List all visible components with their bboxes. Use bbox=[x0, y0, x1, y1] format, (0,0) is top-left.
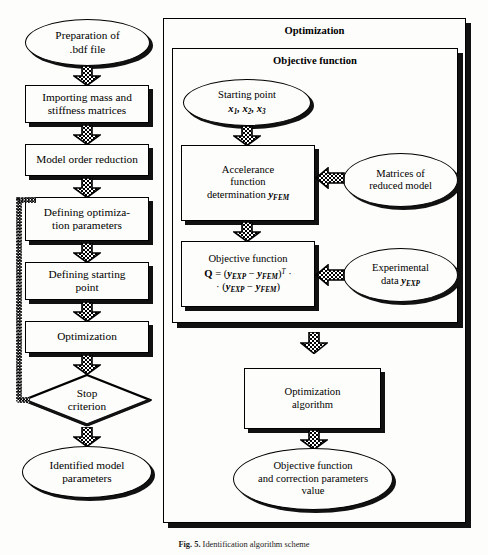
node-result-line1: Objective function bbox=[258, 460, 368, 473]
node-starting-point-line1: Starting point bbox=[218, 89, 276, 102]
optimization-frame-title: Optimization bbox=[163, 25, 466, 36]
stop-criterion-label-wrap: Stop criterion bbox=[22, 373, 152, 427]
var-x3-sub: 3 bbox=[262, 107, 266, 115]
dashed-feedback-loop bbox=[10, 196, 40, 404]
objective-sub2: FEM bbox=[262, 273, 278, 281]
objective-sub4: FEM bbox=[260, 286, 276, 294]
figure-canvas: Optimization Objective function Preparat… bbox=[0, 0, 488, 555]
objective-dot1: · bbox=[288, 268, 292, 279]
node-result-value[interactable]: Objective function and correction parame… bbox=[233, 448, 393, 510]
accelerance-y-sub: FEM bbox=[273, 194, 289, 202]
node-stop-criterion-line2: criterion bbox=[68, 400, 106, 413]
hatched-down-arrow-1 bbox=[73, 66, 101, 86]
node-stop-criterion-line1: Stop bbox=[68, 387, 106, 400]
hatched-down-arrow-10 bbox=[300, 332, 328, 354]
hatched-down-arrow-4 bbox=[73, 243, 101, 263]
node-model-order-reduction[interactable]: Model order reduction bbox=[25, 144, 149, 176]
experimental-y-sub: EXP bbox=[406, 279, 420, 287]
node-importing-matrices-line2: stiffness matrices bbox=[42, 104, 132, 117]
hatched-down-arrow-9 bbox=[233, 222, 261, 242]
node-experimental-data[interactable]: Experimental data yEXP bbox=[343, 248, 458, 302]
figure-caption: Fig. 5. Identification algorithm scheme bbox=[0, 540, 488, 549]
node-importing-matrices-line1: Importing mass and bbox=[42, 91, 132, 104]
figure-caption-text: Identification algorithm scheme bbox=[203, 540, 310, 549]
figure-caption-label: Fig. 5. bbox=[178, 540, 200, 549]
node-defining-starting-point[interactable]: Defining starting point bbox=[25, 262, 149, 300]
objective-formula-line1: Q = (yEXP − yFEM)T · bbox=[204, 268, 291, 282]
node-optimization-left[interactable]: Optimization bbox=[25, 321, 149, 353]
objective-formula-line2: · (yEXP − yFEM) bbox=[204, 281, 291, 294]
objective-sub1: EXP bbox=[232, 273, 246, 281]
node-objective-function-formula[interactable]: Objective function Q = (yEXP − yFEM)T · … bbox=[181, 241, 315, 307]
node-preparation-bdf-line1: Preparation of bbox=[55, 29, 119, 42]
node-model-order-reduction-line1: Model order reduction bbox=[36, 153, 138, 166]
hatched-down-arrow-6 bbox=[73, 355, 101, 375]
hatched-down-arrow-3 bbox=[73, 178, 101, 198]
node-starting-point[interactable]: Starting point x1, x2, x3 bbox=[183, 79, 311, 126]
hatched-left-arrow-1 bbox=[315, 167, 345, 189]
node-matrices-line1: Matrices of bbox=[369, 168, 432, 181]
node-optimization-left-line1: Optimization bbox=[57, 330, 117, 343]
hatched-down-arrow-5 bbox=[73, 302, 101, 322]
node-algorithm-line2: algorithm bbox=[285, 399, 341, 412]
node-matrices-line2: reduced model bbox=[369, 180, 432, 193]
hatched-down-arrow-7 bbox=[73, 427, 101, 447]
objective-sub3: EXP bbox=[230, 286, 244, 294]
node-matrices-reduced-model[interactable]: Matrices of reduced model bbox=[343, 153, 458, 207]
objective-function-frame-title: Objective function bbox=[172, 55, 458, 66]
node-identified-model-parameters[interactable]: Identified model parameters bbox=[22, 446, 152, 498]
node-preparation-bdf[interactable]: Preparation of .bdf file bbox=[25, 19, 150, 66]
node-result-line3: value bbox=[258, 485, 368, 498]
hatched-down-arrow-8 bbox=[233, 126, 261, 146]
hatched-down-arrow-2 bbox=[73, 125, 101, 145]
node-starting-point-vars: x1, x2, x3 bbox=[218, 103, 276, 116]
node-stop-criterion[interactable]: Stop criterion bbox=[22, 373, 152, 427]
hatched-left-arrow-2 bbox=[315, 264, 345, 286]
node-result-line2: and correction parameters bbox=[258, 473, 368, 486]
node-optimization-algorithm[interactable]: Optimization algorithm bbox=[244, 368, 381, 429]
node-preparation-bdf-line2: .bdf file bbox=[55, 43, 119, 56]
node-defining-starting-point-line2: point bbox=[49, 281, 126, 294]
experimental-line2-pre: data bbox=[381, 275, 401, 286]
node-experimental-line2: data yEXP bbox=[372, 275, 429, 288]
hatched-down-arrow-11 bbox=[300, 430, 328, 450]
objective-title: Objective function bbox=[204, 253, 291, 266]
node-experimental-line1: Experimental bbox=[372, 262, 429, 275]
node-defining-starting-point-line1: Defining starting bbox=[49, 268, 126, 281]
node-defining-optimization-parameters[interactable]: Defining optimiza- tion parameters bbox=[25, 197, 149, 241]
node-accelerance-function[interactable]: Accelerance function determination yFEM bbox=[181, 145, 315, 221]
node-algorithm-line1: Optimization bbox=[285, 386, 341, 399]
objective-q: Q bbox=[204, 268, 212, 279]
node-identified-model-parameters-line2: parameters bbox=[50, 472, 125, 485]
node-accelerance-line3: determination yFEM bbox=[207, 189, 289, 202]
node-accelerance-line2: function bbox=[207, 176, 289, 189]
node-defining-optimization-parameters-line2: tion parameters bbox=[44, 219, 130, 232]
node-identified-model-parameters-line1: Identified model bbox=[50, 459, 125, 472]
node-defining-optimization-parameters-line1: Defining optimiza- bbox=[44, 206, 130, 219]
node-accelerance-line1: Accelerance bbox=[207, 164, 289, 177]
accelerance-line3-pre: determination bbox=[207, 189, 268, 200]
node-importing-matrices[interactable]: Importing mass and stiffness matrices bbox=[25, 85, 149, 123]
